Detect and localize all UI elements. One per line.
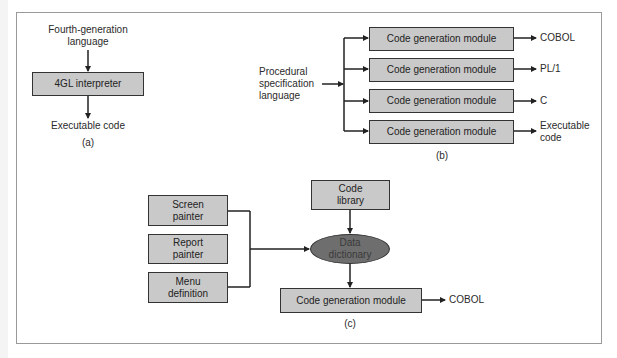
b-module-3-label: Code generation module (387, 95, 497, 107)
data-dictionary-line1: Data (339, 237, 360, 249)
b-module-4: Code generation module (369, 120, 514, 144)
b-input-line1: Procedural (259, 66, 314, 78)
b-module-1-label: Code generation module (387, 33, 497, 45)
b-module-4-label: Code generation module (387, 126, 497, 138)
menu-definition-line1: Menu (175, 276, 200, 288)
c-output-cobol: COBOL (449, 294, 484, 306)
caption-b: (b) (422, 150, 462, 162)
c-code-generation-label: Code generation module (296, 295, 406, 307)
b-output-executable-line1: Executable (540, 120, 589, 132)
a-input-line1: Fourth-generation (38, 24, 138, 36)
a-input-label: Fourth-generation language (38, 24, 138, 48)
b-module-3: Code generation module (369, 89, 514, 113)
b-output-pl1: PL/1 (540, 63, 561, 75)
a-output-label: Executable code (38, 120, 138, 132)
menu-definition-line2: definition (168, 288, 208, 300)
b-output-cobol: COBOL (540, 32, 575, 44)
b-input-label: Procedural specification language (259, 66, 314, 102)
b-output-executable: Executable code (540, 120, 589, 144)
a-input-line2: language (38, 36, 138, 48)
b-input-line3: language (259, 90, 314, 102)
caption-a: (a) (68, 137, 108, 149)
report-painter-box: Report painter (148, 234, 228, 264)
caption-c: (c) (330, 318, 370, 330)
b-input-line2: specification (259, 78, 314, 90)
b-module-2-label: Code generation module (387, 64, 497, 76)
screen-painter-box: Screen painter (148, 195, 228, 226)
report-painter-line2: painter (173, 249, 204, 261)
c-code-generation-module: Code generation module (280, 288, 422, 313)
interpreter-box: 4GL interpreter (32, 72, 144, 96)
interpreter-box-label: 4GL interpreter (55, 78, 122, 90)
data-dictionary-ellipse: Data dictionary (310, 234, 390, 264)
report-painter-line1: Report (173, 237, 203, 249)
b-module-1: Code generation module (369, 27, 514, 51)
code-library-box: Code library (311, 180, 390, 210)
b-module-2: Code generation module (369, 58, 514, 82)
menu-definition-box: Menu definition (148, 272, 228, 303)
screen-painter-line1: Screen (172, 199, 204, 211)
data-dictionary-line2: dictionary (329, 249, 372, 261)
b-output-c: C (540, 95, 547, 107)
screen-painter-line2: painter (173, 211, 204, 223)
code-library-line1: Code (339, 183, 363, 195)
code-library-line2: library (337, 195, 364, 207)
b-output-executable-line2: code (540, 132, 589, 144)
